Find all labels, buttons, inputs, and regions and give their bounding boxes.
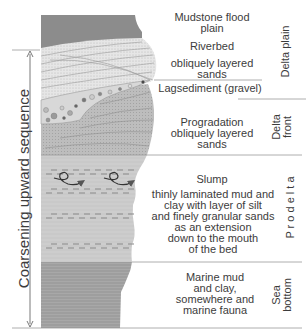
- label-lagsediment: Lagsediment (gravel): [155, 83, 265, 94]
- zone-sea-bottom: Sea bottom: [271, 275, 293, 315]
- sequence-label: Coarsening upward sequence: [15, 89, 32, 289]
- label-riverbed: Riverbed: [162, 41, 262, 52]
- label-oblique-sands: obliquely layered sands: [157, 58, 267, 80]
- zone-delta-plain: Delta plain: [280, 22, 291, 82]
- label-prodelta-desc: thinly laminated mud and clay with layer…: [148, 189, 278, 255]
- label-mudstone: Mudstone flood plain: [162, 12, 262, 34]
- label-sea-bottom-desc: Marine mud and clay, somewhere and marin…: [170, 272, 260, 316]
- layer-sea-bottom: [41, 262, 132, 328]
- layer-prodelta: [41, 155, 147, 262]
- zone-delta-front: Delta front: [271, 107, 293, 147]
- label-slump: Slump: [162, 174, 262, 185]
- zone-prodelta: P r o d e l t a: [285, 153, 296, 263]
- label-progradation: Progradation obliquely layered sands: [157, 117, 267, 150]
